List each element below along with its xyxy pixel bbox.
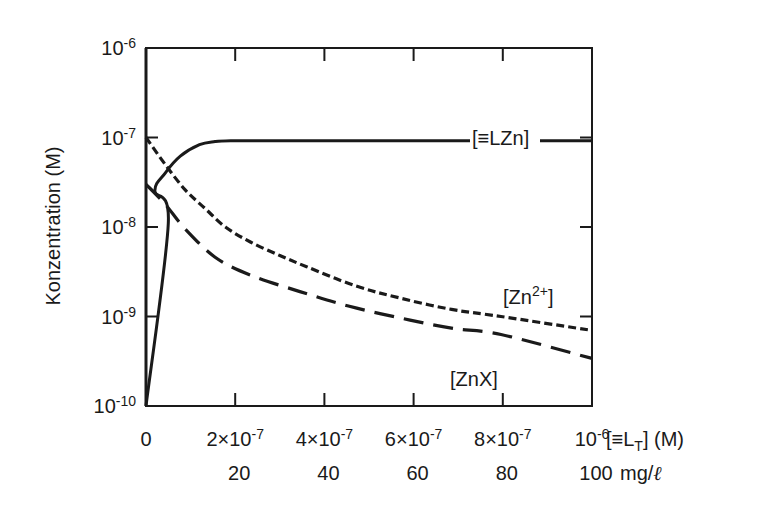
y-tick-label: 10-6 xyxy=(101,35,136,59)
series-label-zn2plus: [Zn2+] xyxy=(503,283,553,308)
series-line-dashed xyxy=(146,184,592,358)
zn2plus-close: ] xyxy=(548,286,554,308)
y-tick-label: 10-8 xyxy=(101,214,136,238)
y-tick-label: 10-10 xyxy=(94,393,137,417)
y-tick-labels: 10-610-710-810-910-10 xyxy=(94,35,137,417)
x-ticks xyxy=(235,48,503,406)
zn2plus-superscript: 2+ xyxy=(532,283,548,299)
x-tick-label-mg: 100 xyxy=(579,462,612,484)
liter-script-l: ℓ xyxy=(653,462,662,484)
series-label-lzn: [≡LZn] xyxy=(472,127,529,149)
x-axis-title-tail: ] (M) xyxy=(643,428,684,450)
plot-frame xyxy=(146,48,592,406)
series-group xyxy=(146,138,592,407)
x-tick-label-mg: 80 xyxy=(496,462,518,484)
x-tick-label-mg: 40 xyxy=(317,462,339,484)
series-line-solid xyxy=(146,141,592,406)
x-tick-label: 2×10-7 xyxy=(206,426,264,450)
x-tick-label: 10-6 xyxy=(575,426,610,450)
x-tick-label-mg: 20 xyxy=(228,462,250,484)
x-axis-title-main: [≡L xyxy=(606,428,634,450)
x-tick-label: 4×10-7 xyxy=(296,426,354,450)
x-axis-secondary-unit: mg/ xyxy=(620,462,654,484)
x-axis-secondary-title: mg/ℓ xyxy=(620,462,662,484)
chart: 10-610-710-810-910-10 02×10-7204×10-7406… xyxy=(0,0,772,521)
zn2plus-base: [Zn xyxy=(503,286,532,308)
x-tick-labels: 02×10-7204×10-7406×10-7608×10-78010-6100 xyxy=(140,426,612,484)
y-tick-label: 10-7 xyxy=(101,125,136,149)
x-axis-title: [≡LT] (M) xyxy=(606,428,684,454)
y-axis-title: Konzentration (M) xyxy=(42,147,64,306)
x-tick-label: 6×10-7 xyxy=(385,426,443,450)
x-tick-label: 0 xyxy=(140,428,151,450)
x-tick-label-mg: 60 xyxy=(406,462,428,484)
x-tick-label: 8×10-7 xyxy=(474,426,532,450)
y-tick-label: 10-9 xyxy=(101,304,136,328)
series-label-znx: [ZnX] xyxy=(450,368,498,390)
